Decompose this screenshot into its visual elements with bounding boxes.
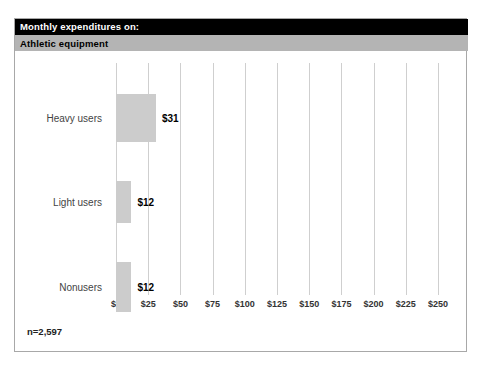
value-label: $12 <box>137 282 154 293</box>
x-tick-label: $175 <box>331 299 351 309</box>
gridline <box>438 63 439 295</box>
x-tick-label: $75 <box>205 299 220 309</box>
page-title: Monthly expenditures on: <box>20 21 139 32</box>
x-tick-label: $200 <box>364 299 384 309</box>
value-label: $12 <box>137 197 154 208</box>
chart-subtitle-bar: Athletic equipment <box>15 35 468 51</box>
sample-size-note: n=2,597 <box>27 326 62 337</box>
gridline <box>180 63 181 295</box>
gridline <box>406 63 407 295</box>
gridline <box>213 63 214 295</box>
chart-subtitle: Athletic equipment <box>20 38 108 49</box>
x-tick-label: $225 <box>396 299 416 309</box>
chart-title-bar: Monthly expenditures on: <box>15 19 468 35</box>
bar <box>116 94 156 142</box>
chart-card: Monthly expenditures on: Athletic equipm… <box>14 18 467 352</box>
bar <box>116 181 131 223</box>
bar <box>116 262 131 312</box>
gridline <box>374 63 375 295</box>
plot-area: $0$25$50$75$100$125$150$175$200$225$250 … <box>15 51 468 353</box>
value-label: $31 <box>162 113 179 124</box>
category-label: Nonusers <box>15 282 102 293</box>
x-tick-label: $250 <box>428 299 448 309</box>
gridline <box>341 63 342 295</box>
category-label: Heavy users <box>15 113 102 124</box>
x-tick-label: $100 <box>235 299 255 309</box>
gridline <box>245 63 246 295</box>
x-tick-label: $125 <box>267 299 287 309</box>
category-label: Light users <box>15 197 102 208</box>
x-tick-label: $150 <box>299 299 319 309</box>
gridline <box>277 63 278 295</box>
x-tick-label: $50 <box>173 299 188 309</box>
x-tick-label: $25 <box>141 299 156 309</box>
gridline <box>309 63 310 295</box>
